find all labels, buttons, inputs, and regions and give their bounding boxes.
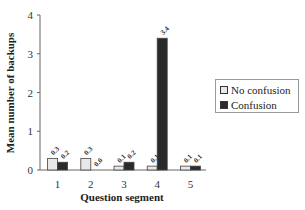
bars (48, 38, 201, 170)
bar (147, 166, 157, 170)
y-tick-label: 4 (28, 9, 34, 21)
data-label: 0.1 (192, 152, 204, 164)
bar (124, 162, 134, 170)
bar (180, 166, 190, 170)
y-tick-label: 2 (28, 87, 34, 99)
x-tick-label: 1 (55, 178, 61, 190)
bar (58, 162, 68, 170)
data-label: 3.4 (159, 24, 171, 36)
bar (81, 158, 91, 170)
x-tick-label: 3 (121, 178, 127, 190)
legend-item-no-confusion: No confusion (220, 82, 298, 97)
legend-label: No confusion (231, 84, 291, 96)
bar (48, 158, 58, 170)
y-axis-title: Mean number of backups (4, 32, 16, 153)
legend-label: Confusion (231, 99, 277, 111)
y-tick-label: 0 (28, 164, 34, 176)
data-labels: 0.30.20.30.00.10.20.13.40.10.1 (49, 24, 204, 168)
data-label: 0.2 (59, 148, 71, 160)
y-tick-label: 1 (28, 125, 34, 137)
bar (114, 166, 124, 170)
data-label: 0.3 (83, 145, 95, 157)
legend: No confusion Confusion (215, 79, 299, 113)
y-axis: 01234 (28, 9, 41, 176)
legend-item-confusion: Confusion (220, 97, 298, 112)
bar (157, 38, 167, 170)
bar (190, 166, 200, 170)
confusion-swatch-icon (220, 101, 228, 109)
y-tick-label: 3 (28, 48, 34, 60)
x-tick-label: 5 (188, 178, 194, 190)
data-label: 0.2 (126, 148, 138, 160)
x-tick-label: 2 (88, 178, 94, 190)
no-confusion-swatch-icon (220, 86, 228, 94)
x-axis: 12345 (40, 170, 206, 190)
x-axis-title: Question segment (80, 191, 164, 203)
data-label: 0.0 (93, 156, 105, 168)
x-tick-label: 4 (154, 178, 160, 190)
